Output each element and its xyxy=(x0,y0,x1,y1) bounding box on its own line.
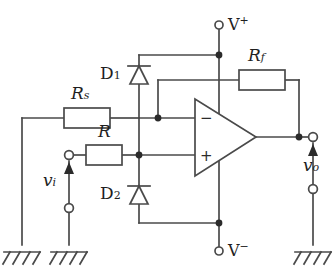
node-vplus-rail xyxy=(216,52,223,59)
diode-d1 xyxy=(128,66,150,84)
ground-input-hatch-3 xyxy=(70,252,77,264)
vo-top-terminal[interactable] xyxy=(309,133,318,142)
vi-arrow-icon xyxy=(64,162,74,174)
ground-output-hatch-1 xyxy=(294,252,301,264)
vminus-terminal[interactable] xyxy=(215,247,223,255)
ground-input-hatch-4 xyxy=(80,252,87,264)
ground-output xyxy=(294,252,331,264)
ground-left-hatch-2 xyxy=(13,252,20,264)
diode-d2 xyxy=(128,186,150,204)
vi-bottom-terminal[interactable] xyxy=(65,204,74,213)
diode-d1-triangle xyxy=(130,66,148,84)
resistor-rf xyxy=(239,70,285,90)
ground-left-hatch-4 xyxy=(33,252,40,264)
opamp-inverting-sign: − xyxy=(200,109,213,127)
label-d2-sub: 2 xyxy=(114,189,121,202)
diode-d2-triangle xyxy=(130,186,148,204)
label-resistor-rs: Rs xyxy=(71,85,89,102)
label-input-voltage: vi xyxy=(43,172,56,189)
label-vplus-base: V xyxy=(228,15,240,34)
label-vi-sub: i xyxy=(53,176,57,189)
wire-network xyxy=(22,29,313,247)
label-diode-d1: D1 xyxy=(100,65,121,82)
opamp-noninverting-sign: + xyxy=(200,147,213,165)
label-vplus-sup: + xyxy=(240,14,249,27)
ground-input-hatch-2 xyxy=(60,252,67,264)
label-output-voltage: vo xyxy=(303,157,319,174)
label-d1-sub: 1 xyxy=(114,69,121,82)
resistor-rf-body xyxy=(239,70,285,90)
label-rs-sub: s xyxy=(84,89,90,102)
label-d1-base: D xyxy=(100,63,114,83)
label-resistor-rf: Rf xyxy=(248,47,265,64)
label-vo-sub: o xyxy=(313,161,320,174)
vi-top-terminal[interactable] xyxy=(65,151,74,160)
label-vo-base: v xyxy=(303,155,313,175)
label-diode-d2: D2 xyxy=(100,185,121,202)
label-d2-base: D xyxy=(100,183,114,203)
label-rs-base: R xyxy=(71,83,84,103)
label-rf-base: R xyxy=(248,45,261,65)
ground-output-hatch-3 xyxy=(314,252,321,264)
vo-bottom-terminal[interactable] xyxy=(309,185,318,194)
label-supply-negative: V− xyxy=(228,241,249,259)
node-inverting-input xyxy=(155,115,162,122)
resistor-r xyxy=(86,145,122,165)
label-supply-positive: V+ xyxy=(228,15,249,33)
label-resistor-r: R xyxy=(98,123,111,140)
node-noninverting-input xyxy=(136,152,143,159)
ground-left-hatch-3 xyxy=(23,252,30,264)
label-r-base: R xyxy=(98,121,111,141)
label-vminus-base: V xyxy=(228,241,240,260)
label-vi-base: v xyxy=(43,170,53,190)
ground-output-hatch-2 xyxy=(304,252,311,264)
resistor-r-body xyxy=(86,145,122,165)
ground-input-hatch-1 xyxy=(50,252,57,264)
ground-input xyxy=(50,252,87,264)
ground-left-hatch-1 xyxy=(3,252,10,264)
node-vminus-rail xyxy=(216,220,223,227)
label-vminus-sup: − xyxy=(240,240,249,253)
vplus-terminal[interactable] xyxy=(215,21,223,29)
node-output xyxy=(296,134,303,141)
schematic-canvas xyxy=(0,0,335,278)
label-rf-sub: f xyxy=(261,51,265,64)
ground-output-hatch-4 xyxy=(324,252,331,264)
circuit-diagram: Rs R Rf D1 D2 vi vo V+ V− − + xyxy=(0,0,335,278)
ground-left xyxy=(3,252,40,264)
